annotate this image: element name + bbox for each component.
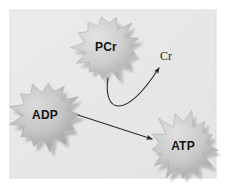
diagram-canvas xyxy=(0,0,229,191)
diagram-figure: PCr ADP ATP Cr xyxy=(0,0,229,191)
